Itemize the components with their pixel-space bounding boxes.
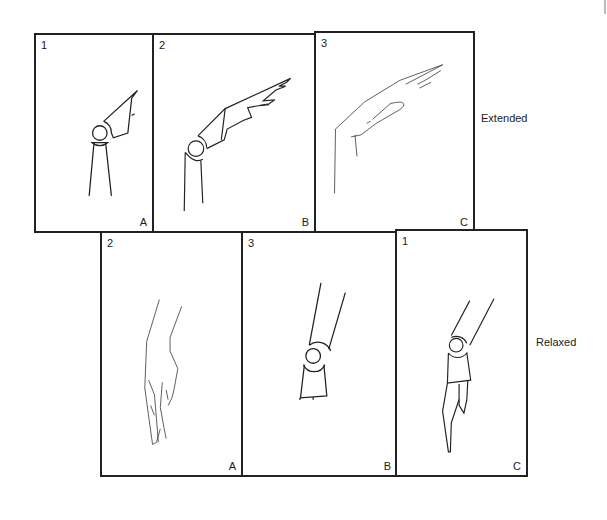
panel-number: 1 xyxy=(41,39,47,51)
hand-semi-schematic-extended-icon xyxy=(154,35,314,231)
panel-letter: C xyxy=(513,460,521,472)
panel-number: 2 xyxy=(159,39,165,51)
panel-relaxed-a: 2 A xyxy=(100,231,243,477)
panel-extended-b: 2 B xyxy=(152,33,316,233)
panel-relaxed-b: 3 B xyxy=(241,231,398,477)
panel-number: 2 xyxy=(107,237,113,249)
panel-number: 3 xyxy=(321,37,327,49)
hand-freehand-extended-icon xyxy=(316,33,473,231)
panel-number: 1 xyxy=(402,235,408,247)
hand-schematic-extended-icon xyxy=(36,35,152,231)
edge-artifact xyxy=(604,0,606,14)
panel-relaxed-c: 1 C xyxy=(395,229,528,477)
panel-letter: A xyxy=(229,460,236,472)
row-label-extended: Extended xyxy=(481,112,527,124)
panel-extended-a: 1 A xyxy=(34,33,154,233)
panel-letter: A xyxy=(140,216,147,228)
panel-number: 3 xyxy=(248,237,254,249)
panel-extended-c: 3 C xyxy=(314,31,475,233)
panel-letter: C xyxy=(460,216,468,228)
row-label-relaxed: Relaxed xyxy=(536,336,576,348)
hand-semi-schematic-relaxed-icon xyxy=(397,231,526,475)
hand-freehand-relaxed-icon xyxy=(102,233,241,475)
hand-schematic-relaxed-icon xyxy=(243,233,396,475)
panel-letter: B xyxy=(302,216,309,228)
panel-letter: B xyxy=(384,460,391,472)
